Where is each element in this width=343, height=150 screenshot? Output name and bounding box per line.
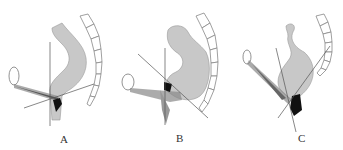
panel-label-b: B [176, 132, 183, 144]
pubis-a [9, 67, 19, 85]
sacrum-c [316, 14, 332, 76]
anorectal-diagram: A B [0, 0, 343, 150]
panel-label-a: A [60, 133, 68, 145]
rectum-c [278, 24, 313, 102]
panel-c: C [243, 14, 332, 144]
junction-c [290, 94, 302, 116]
panel-label-c: C [298, 132, 305, 144]
rectum-b [166, 26, 209, 100]
panel-b: B [122, 13, 218, 144]
panel-a: A [9, 14, 102, 145]
pubis-b [122, 74, 134, 90]
